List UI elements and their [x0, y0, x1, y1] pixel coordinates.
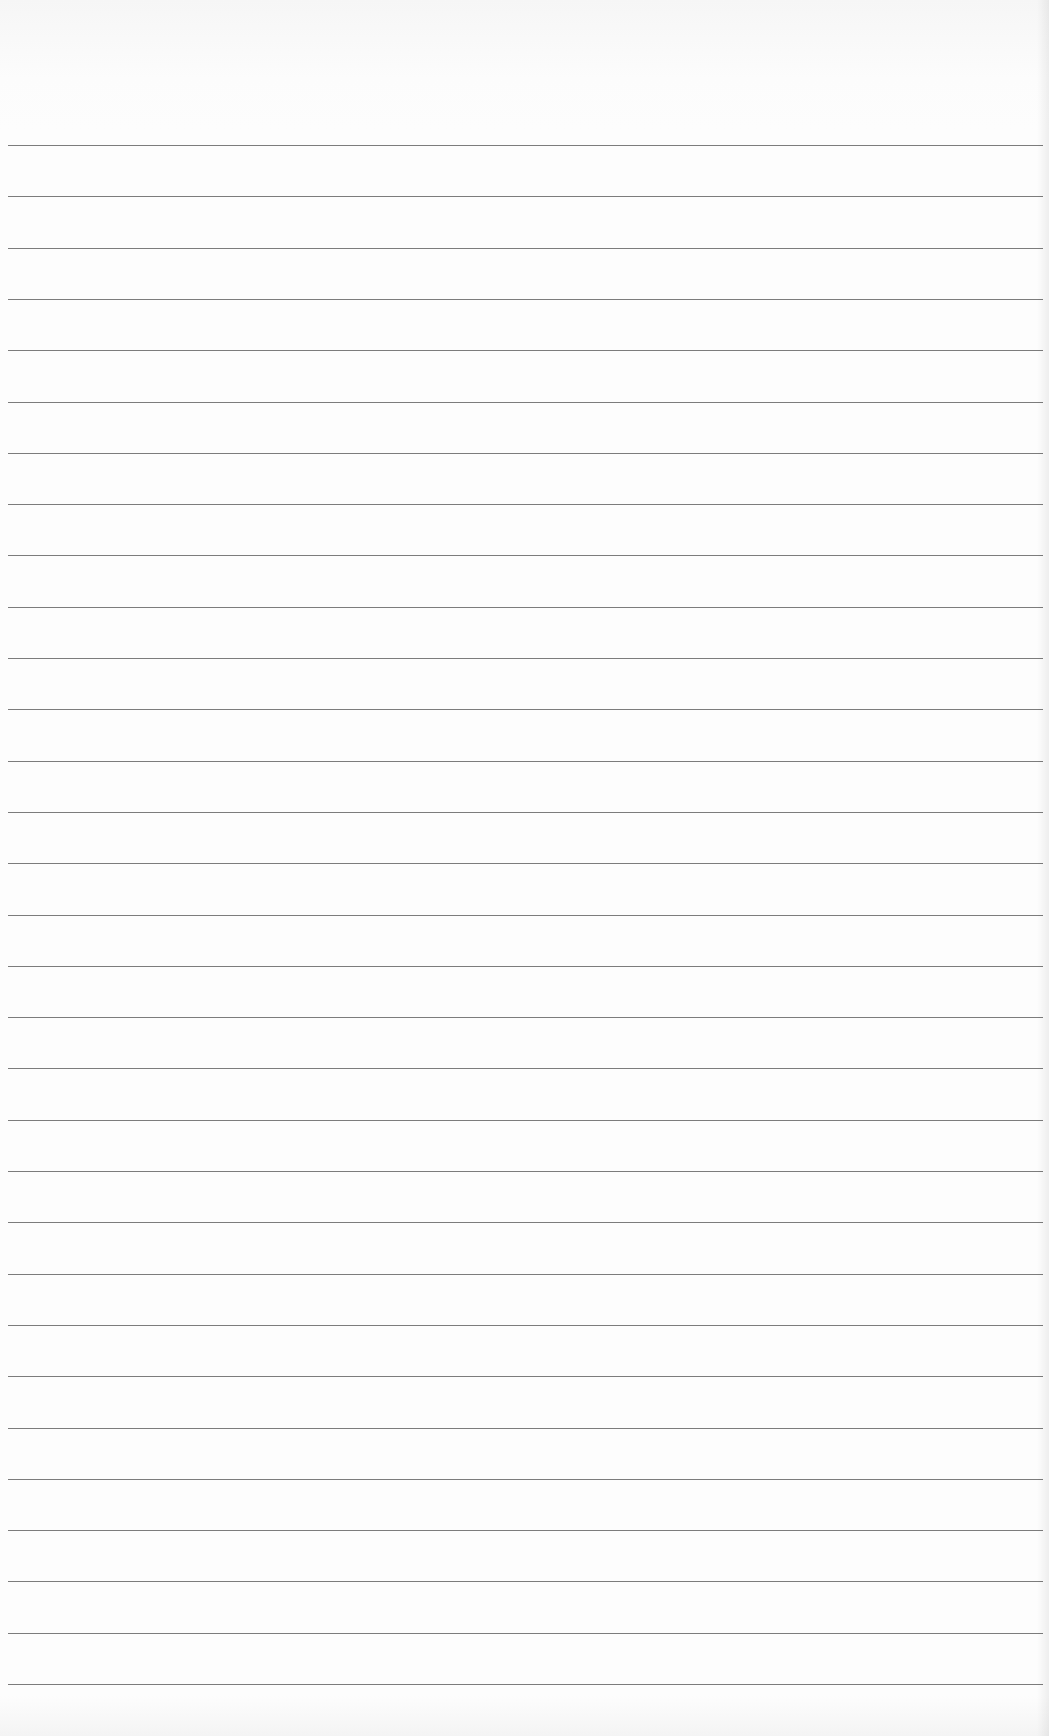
ruled-line	[8, 1068, 1043, 1069]
ruled-line	[8, 709, 1043, 710]
ruled-line	[8, 555, 1043, 556]
ruled-line	[8, 1479, 1043, 1480]
ruled-line	[8, 196, 1043, 197]
ruled-line	[8, 1633, 1043, 1634]
scan-edge-shadow	[1037, 0, 1049, 1736]
ruled-line	[8, 1171, 1043, 1172]
ruled-line	[8, 1325, 1043, 1326]
ruled-line	[8, 1684, 1043, 1685]
ruled-line	[8, 863, 1043, 864]
ruled-line	[8, 504, 1043, 505]
ruled-line	[8, 1376, 1043, 1377]
ruled-line	[8, 299, 1043, 300]
ruled-line	[8, 1017, 1043, 1018]
ruled-line	[8, 607, 1043, 608]
ruled-line	[8, 453, 1043, 454]
ruled-line	[8, 350, 1043, 351]
ruled-line	[8, 1274, 1043, 1275]
ruled-line	[8, 761, 1043, 762]
ruled-line	[8, 248, 1043, 249]
ruled-line	[8, 915, 1043, 916]
ruled-line	[8, 1222, 1043, 1223]
ruled-line	[8, 1428, 1043, 1429]
ruled-line	[8, 145, 1043, 146]
ruled-line	[8, 402, 1043, 403]
ruled-line	[8, 812, 1043, 813]
ruled-line	[8, 1120, 1043, 1121]
ruled-line	[8, 1530, 1043, 1531]
top-margin-area	[0, 0, 1049, 130]
ruled-line	[8, 966, 1043, 967]
bottom-margin-area	[0, 1696, 1049, 1736]
ruled-paper-sheet	[0, 0, 1049, 1736]
ruled-line	[8, 1581, 1043, 1582]
ruled-line	[8, 658, 1043, 659]
